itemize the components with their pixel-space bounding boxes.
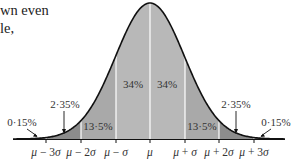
label-mid-right: 13·5% (187, 120, 216, 132)
label-tail-right: 0·15% (261, 116, 290, 128)
tick-label-plus-3-sigma: μ + 3σ (238, 146, 270, 159)
label-tail-left: 0·15% (7, 116, 36, 128)
tick-label-mean: μ (146, 146, 153, 159)
tick-label-minus-1-sigma: μ − σ (103, 146, 129, 159)
region-outer-right (219, 0, 254, 139)
x-axis-labels: μ − 3σ μ − 2σ μ − σ μ μ + σ μ + 2σ μ + 3… (30, 146, 270, 159)
tick-label-minus-2-sigma: μ − 2σ (65, 146, 97, 159)
label-mid-left: 13·5% (83, 120, 112, 132)
label-center-left: 34% (123, 78, 143, 90)
region-center-left (116, 0, 150, 139)
normal-distribution-chart: 34% 34% 13·5% 13·5% 2·35% 2·35% 0·15% 0·… (0, 0, 295, 163)
shaded-regions (0, 0, 295, 139)
tick-label-plus-1-sigma: μ + σ (172, 146, 198, 159)
label-outer-right: 2·35% (221, 98, 250, 110)
label-center-right: 34% (157, 78, 177, 90)
label-outer-left: 2·35% (50, 98, 79, 110)
tick-label-plus-2-sigma: μ + 2σ (203, 146, 235, 159)
sigma-dividers (46, 0, 254, 139)
tick-label-minus-3-sigma: μ − 3σ (30, 146, 62, 159)
region-outer-left (46, 0, 81, 139)
